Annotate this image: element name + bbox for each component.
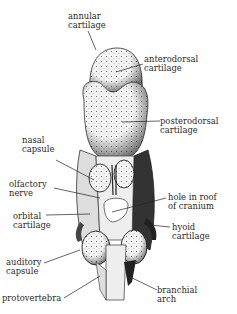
label-posterodorsal-cartilage: posterodorsal cartilage	[160, 117, 218, 135]
label-branchial-arch: branchial arch	[157, 286, 197, 304]
nasal-capsule-left	[89, 164, 111, 192]
label-nasal-capsule: nasal capsule	[22, 136, 54, 154]
label-hole-in-roof: hole in roof of cranium	[168, 193, 217, 211]
label-olfactory-nerve: olfactory nerve	[9, 180, 47, 198]
nasal-capsule-right	[114, 160, 134, 188]
label-protovertebra: protovertebra	[2, 294, 61, 303]
label-auditory-capsule: auditory capsule	[6, 258, 42, 276]
label-hyoid-cartilage: hyoid cartilage	[172, 223, 210, 241]
label-orbital-cartilage: orbital cartilage	[13, 212, 51, 230]
label-annular-cartilage: annular cartilage	[68, 12, 106, 30]
label-anterodorsal-cartilage: anterodorsal cartilage	[144, 55, 198, 73]
